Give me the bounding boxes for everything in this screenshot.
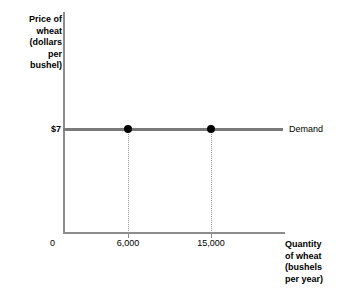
x-axis-title: Quantity of wheat (bushels per year) bbox=[285, 239, 345, 285]
dropline-15000 bbox=[211, 131, 212, 233]
demand-curve-label: Demand bbox=[289, 124, 323, 134]
y-axis-title-line-2: wheat bbox=[2, 26, 62, 38]
y-axis-line bbox=[63, 12, 65, 234]
data-point-marker-15000 bbox=[207, 125, 215, 133]
x-axis-title-line-1: Quantity bbox=[285, 239, 345, 251]
data-point-marker-6000 bbox=[124, 125, 132, 133]
x-axis-title-line-3: (bushels bbox=[285, 262, 345, 274]
x-tick-label-15000: 15,000 bbox=[197, 238, 225, 248]
y-tick-label-7: $7 bbox=[51, 124, 61, 134]
x-axis-line bbox=[63, 232, 285, 234]
x-tick-label-6000: 6,000 bbox=[117, 238, 140, 248]
x-axis-title-line-2: of wheat bbox=[285, 251, 345, 263]
dropline-6000 bbox=[128, 131, 129, 233]
y-axis-title-line-1: Price of bbox=[2, 14, 62, 26]
y-axis-title: Price of wheat (dollars per bushel) bbox=[2, 14, 62, 72]
y-axis-title-line-3: (dollars bbox=[2, 37, 62, 49]
y-axis-title-line-4: per bbox=[2, 49, 62, 61]
x-tick-label-origin: 0 bbox=[50, 238, 55, 248]
demand-curve-chart: Price of wheat (dollars per bushel) $7 D… bbox=[0, 0, 345, 292]
x-axis-title-line-4: per year) bbox=[285, 274, 345, 286]
demand-curve-line bbox=[63, 128, 283, 131]
y-axis-title-line-5: bushel) bbox=[2, 60, 62, 72]
